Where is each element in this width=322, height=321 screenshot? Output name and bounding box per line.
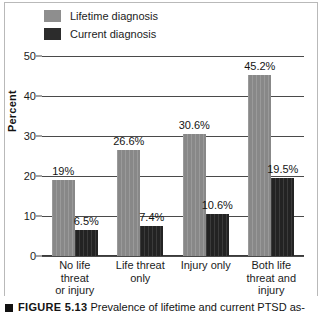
- y-axis-tick-label: 40: [0, 91, 36, 102]
- figure-container: Lifetime diagnosis Current diagnosis Per…: [0, 0, 322, 321]
- legend-item-lifetime: Lifetime diagnosis: [44, 8, 244, 24]
- caption-body: Prevalence of lifetime and current PTSD …: [87, 301, 305, 313]
- bar-value-label: 10.6%: [202, 200, 233, 211]
- figure-caption: FIGURE 5.13 Prevalence of lifetime and c…: [5, 301, 317, 314]
- bar-value-label: 30.6%: [179, 120, 210, 131]
- y-axis-tick-label: 20: [0, 171, 36, 182]
- bar-groups: 19%6.5%26.6%7.4%30.6%10.6%45.2%19.5%: [42, 56, 304, 256]
- x-axis-tick-labels: No life threator injuryLife threatonlyIn…: [42, 259, 304, 297]
- x-axis-tick-label: Injury only: [175, 259, 237, 272]
- bar-value-label: 19.5%: [267, 164, 298, 175]
- legend-swatch-current-icon: [44, 28, 61, 40]
- bar-pair: 45.2%19.5%: [248, 56, 294, 256]
- bar-current: 19.5%: [271, 178, 294, 256]
- y-axis-tick-label: 50: [0, 51, 36, 62]
- bar-current: 7.4%: [140, 226, 163, 256]
- bar-pair: 26.6%7.4%: [117, 56, 163, 256]
- bar-lifetime: 26.6%: [117, 150, 140, 256]
- bar-group: 30.6%10.6%: [183, 56, 229, 256]
- bar-lifetime: 30.6%: [183, 134, 206, 256]
- bar-current: 6.5%: [75, 230, 98, 256]
- bar-current: 10.6%: [206, 214, 229, 256]
- bar-group: 19%6.5%: [52, 56, 98, 256]
- x-axis-tick-label: Life threatonly: [109, 259, 171, 284]
- bar-value-label: 19%: [52, 166, 74, 177]
- legend-swatch-lifetime-icon: [44, 10, 61, 22]
- x-axis-tick-label: No life threator injury: [44, 259, 106, 297]
- bar-group: 26.6%7.4%: [117, 56, 163, 256]
- bar-group: 45.2%19.5%: [248, 56, 294, 256]
- plot-area: 01020304050 19%6.5%26.6%7.4%30.6%10.6%45…: [42, 56, 304, 256]
- bar-lifetime: 19%: [52, 180, 75, 256]
- legend-item-current: Current diagnosis: [44, 26, 244, 42]
- chart-legend: Lifetime diagnosis Current diagnosis: [44, 8, 244, 44]
- gridline: [42, 256, 304, 257]
- caption-square-icon: [5, 304, 13, 312]
- bar-value-label: 6.5%: [74, 216, 99, 227]
- bar-pair: 19%6.5%: [52, 56, 98, 256]
- legend-label-lifetime: Lifetime diagnosis: [70, 10, 158, 22]
- y-axis-tick-label: 10: [0, 211, 36, 222]
- y-axis-tick-label: 30: [0, 131, 36, 142]
- x-axis-tick-label: Both lifethreat andinjury: [240, 259, 302, 297]
- bar-value-label: 7.4%: [139, 212, 164, 223]
- legend-label-current: Current diagnosis: [70, 28, 156, 40]
- figure-number: FIGURE 5.13: [18, 301, 87, 313]
- bar-value-label: 45.2%: [244, 61, 275, 72]
- bar-pair: 30.6%10.6%: [183, 56, 229, 256]
- y-axis-tick-label: 0: [0, 251, 36, 262]
- bar-value-label: 26.6%: [113, 136, 144, 147]
